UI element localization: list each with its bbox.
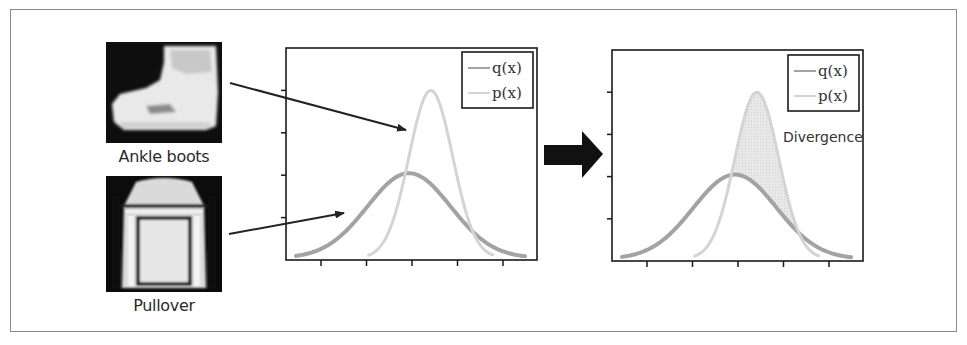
plot-after: q(x)p(x)Divergence: [607, 50, 863, 267]
legend: q(x)p(x): [462, 52, 533, 108]
legend-q-label: q(x): [492, 59, 522, 77]
divergence-region: [732, 92, 799, 232]
divergence-label: Divergence: [783, 129, 863, 145]
plots-canvas: q(x)p(x) q(x)p(x)Divergence: [0, 0, 967, 345]
figure: Ankle boots Pullover: [0, 0, 967, 345]
legend-p-label: p(x): [492, 84, 522, 102]
q-curve: [622, 175, 851, 258]
plot-before: q(x)p(x): [281, 48, 537, 266]
legend-q-label: q(x): [818, 62, 848, 80]
boot-to-p-arrow: [230, 83, 406, 130]
legend: q(x)p(x): [788, 55, 859, 111]
right-arrow-icon: [544, 131, 603, 178]
legend-p-label: p(x): [818, 87, 848, 105]
